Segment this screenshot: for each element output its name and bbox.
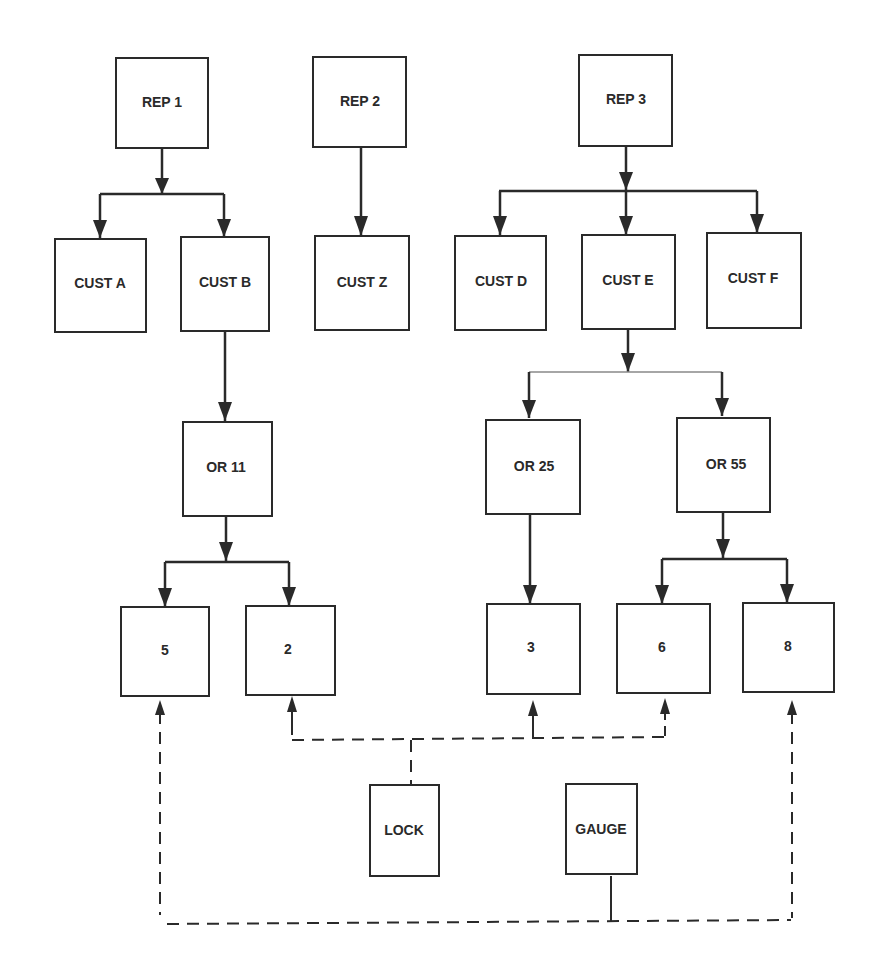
node-rep-1: REP 1 (116, 58, 208, 148)
node-or-11: OR 11 (183, 422, 272, 516)
node-cust-b: CUST B (181, 237, 269, 331)
svg-text:LOCK: LOCK (384, 822, 424, 838)
svg-text:CUST A: CUST A (74, 275, 126, 291)
svg-text:REP 1: REP 1 (142, 94, 182, 110)
solid-connectors (93, 146, 794, 607)
node-rep-3: REP 3 (579, 55, 672, 146)
node-or-55: OR 55 (677, 418, 770, 512)
node-cust-e: CUST E (582, 235, 675, 329)
node-3: 3 (487, 604, 580, 694)
hierarchy-diagram: REP 1 REP 2 REP 3 CUST A CUST B CUST Z C… (0, 0, 878, 964)
node-2: 2 (246, 606, 335, 695)
node-rep-2: REP 2 (313, 57, 406, 147)
svg-text:REP 2: REP 2 (340, 93, 380, 109)
node-cust-z: CUST Z (315, 236, 409, 330)
svg-text:2: 2 (284, 641, 292, 657)
svg-text:CUST Z: CUST Z (337, 274, 388, 290)
svg-text:OR 25: OR 25 (514, 458, 555, 474)
svg-text:OR 11: OR 11 (206, 459, 246, 475)
node-8: 8 (743, 603, 834, 692)
svg-text:CUST D: CUST D (475, 273, 527, 289)
svg-text:OR 55: OR 55 (706, 456, 747, 472)
node-or-25: OR 25 (486, 420, 580, 514)
svg-text:5: 5 (161, 642, 169, 658)
svg-text:CUST E: CUST E (602, 272, 653, 288)
node-cust-d: CUST D (455, 236, 546, 330)
node-cust-f: CUST F (707, 233, 801, 328)
node-6: 6 (617, 604, 710, 693)
svg-text:6: 6 (658, 639, 666, 655)
svg-text:CUST B: CUST B (199, 274, 251, 290)
node-cust-a: CUST A (55, 239, 146, 332)
svg-text:GAUGE: GAUGE (575, 821, 626, 837)
svg-text:CUST F: CUST F (728, 270, 779, 286)
svg-text:REP 3: REP 3 (606, 91, 646, 107)
svg-text:8: 8 (784, 638, 792, 654)
dashed-connectors (155, 696, 797, 924)
node-gauge: GAUGE (566, 784, 637, 874)
svg-text:3: 3 (527, 639, 535, 655)
node-lock: LOCK (370, 785, 439, 876)
node-5: 5 (121, 607, 209, 696)
